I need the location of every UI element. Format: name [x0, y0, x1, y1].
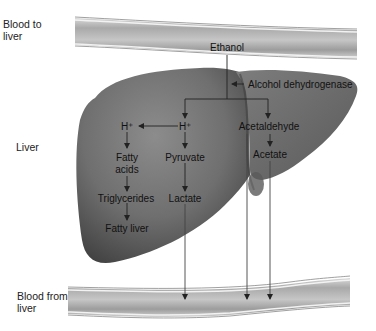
- node-triglycerides: Triglycerides: [98, 193, 154, 204]
- node-ethanol: Ethanol: [210, 42, 244, 53]
- label-liver: Liver: [16, 141, 39, 153]
- node-acetaldehyde: Acetaldehyde: [239, 121, 300, 132]
- label-blood-to-liver-1: Blood to: [3, 18, 42, 30]
- label-blood-from-liver-1: Blood from: [17, 290, 68, 302]
- ethanol-metabolism-diagram: Blood to liver Liver Blood from liver: [0, 0, 376, 331]
- node-fatty-liver: Fatty liver: [105, 223, 149, 234]
- node-acetate: Acetate: [253, 149, 287, 160]
- node-fatty-acids-2: acids: [115, 164, 138, 175]
- node-alcohol-dehydrogenase: Alcohol dehydrogenase: [248, 79, 353, 90]
- node-lactate: Lactate: [169, 193, 202, 204]
- label-blood-from-liver-2: liver: [17, 302, 37, 314]
- node-fatty-acids-1: Fatty: [116, 152, 138, 163]
- node-h-center: H⁺: [179, 121, 191, 132]
- label-blood-to-liver-2: liver: [3, 30, 23, 42]
- node-h-left: H⁺: [121, 121, 133, 132]
- node-pyruvate: Pyruvate: [165, 152, 205, 163]
- liver-left-lobe: [76, 68, 251, 263]
- blood-vessel-from-liver: [68, 276, 350, 318]
